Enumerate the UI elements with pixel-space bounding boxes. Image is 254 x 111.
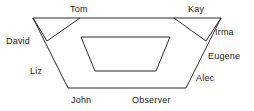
outer-left-edge	[33, 18, 68, 88]
inner-right-edge	[156, 37, 170, 71]
label-david: David	[6, 36, 30, 46]
label-alec: Alec	[196, 73, 214, 83]
left-notch-ascender	[47, 18, 80, 41]
inner-left-edge	[81, 37, 95, 71]
label-irma: Irma	[215, 27, 234, 37]
label-john: John	[71, 95, 91, 105]
label-liz: Liz	[30, 66, 42, 76]
label-eugene: Eugene	[208, 51, 240, 61]
label-observer: Observer	[132, 95, 171, 105]
right-notch-ascender	[174, 18, 206, 41]
label-tom: Tom	[70, 4, 88, 14]
diagram-canvas: Tom Kay Irma David Eugene Liz Alec John …	[0, 0, 254, 111]
label-kay: Kay	[188, 4, 204, 14]
left-notch-descender	[33, 18, 47, 41]
